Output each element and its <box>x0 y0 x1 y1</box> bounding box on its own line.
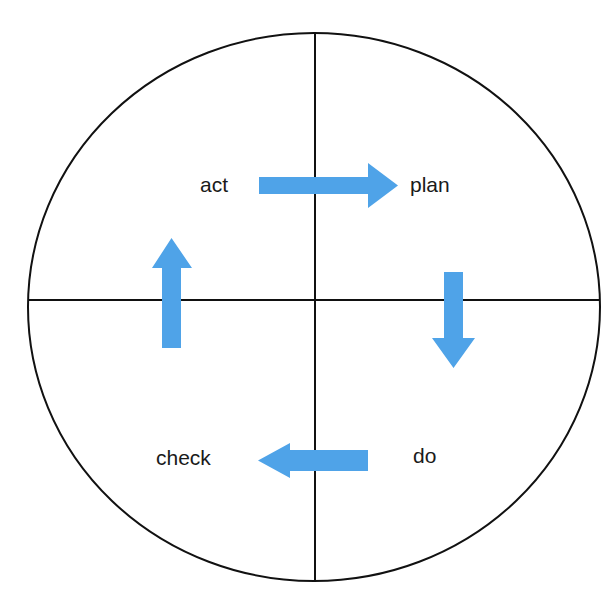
pdca-diagram: act plan check do <box>0 0 615 610</box>
arrow-check-to-act-icon <box>152 238 192 348</box>
quadrant-label-check: check <box>156 446 211 469</box>
arrow-act-to-plan-icon <box>259 163 398 208</box>
quadrant-label-plan: plan <box>410 173 450 196</box>
arrow-plan-to-do-icon <box>432 272 475 368</box>
arrow-do-to-check-icon <box>258 443 368 478</box>
quadrant-label-do: do <box>413 444 436 467</box>
quadrant-label-act: act <box>200 173 228 196</box>
pdca-cycle-svg: act plan check do <box>0 0 615 610</box>
